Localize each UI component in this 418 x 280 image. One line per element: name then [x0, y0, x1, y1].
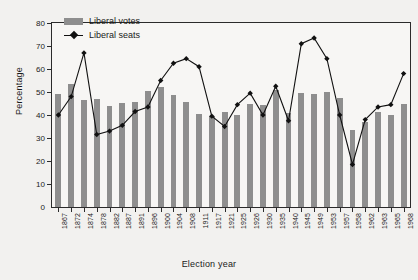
legend-item-liberal-votes: Liberal votes — [64, 14, 140, 28]
x-tick-mark-1878 — [97, 208, 98, 212]
y-tick-mark-60 — [47, 69, 51, 70]
plot-area — [51, 22, 411, 208]
y-tick-label-20: 20 — [5, 157, 45, 166]
legend-item-liberal-seats: Liberal seats — [64, 28, 140, 42]
x-tick-label-1900: 1900 — [164, 213, 171, 229]
x-tick-mark-1887 — [122, 208, 123, 212]
x-tick-label-1867: 1867 — [61, 213, 68, 229]
marker-1940 — [286, 118, 291, 123]
x-tick-mark-1921 — [225, 208, 226, 212]
y-tick-label-70: 70 — [5, 42, 45, 51]
y-tick-mark-50 — [47, 92, 51, 93]
x-tick-label-1904: 1904 — [176, 213, 183, 229]
x-tick-mark-1953 — [327, 208, 328, 212]
y-tick-label-10: 10 — [5, 180, 45, 189]
x-tick-mark-1911 — [199, 208, 200, 212]
x-tick-mark-1935 — [276, 208, 277, 212]
marker-1965 — [388, 102, 393, 107]
x-tick-label-1968: 1968 — [407, 213, 414, 229]
y-tick-mark-30 — [47, 138, 51, 139]
x-tick-mark-1896 — [148, 208, 149, 212]
x-tick-label-1891: 1891 — [138, 213, 145, 229]
x-tick-label-1874: 1874 — [87, 213, 94, 229]
marker-1949 — [311, 35, 316, 40]
liberal-seats-line — [58, 38, 403, 165]
x-tick-mark-1930 — [263, 208, 264, 212]
y-tick-mark-10 — [47, 184, 51, 185]
plot-inner — [52, 23, 410, 207]
x-tick-mark-1962 — [365, 208, 366, 212]
x-tick-mark-1945 — [301, 208, 302, 212]
x-tick-label-1926: 1926 — [253, 213, 260, 229]
x-tick-mark-1874 — [84, 208, 85, 212]
x-tick-label-1957: 1957 — [343, 213, 350, 229]
x-tick-label-1953: 1953 — [330, 213, 337, 229]
marker-1958 — [350, 162, 355, 167]
x-tick-mark-1867 — [58, 208, 59, 212]
y-tick-label-60: 60 — [5, 65, 45, 74]
x-tick-mark-1900 — [161, 208, 162, 212]
x-tick-label-1872: 1872 — [74, 213, 81, 229]
chart-legend: Liberal votes Liberal seats — [64, 14, 140, 42]
x-tick-label-1878: 1878 — [100, 213, 107, 229]
x-tick-label-1887: 1887 — [125, 213, 132, 229]
x-tick-label-1930: 1930 — [266, 213, 273, 229]
y-tick-label-40: 40 — [5, 111, 45, 120]
y-tick-label-30: 30 — [5, 134, 45, 143]
marker-1945 — [299, 41, 304, 46]
y-tick-mark-40 — [47, 115, 51, 116]
x-tick-label-1940: 1940 — [292, 213, 299, 229]
x-tick-label-1925: 1925 — [240, 213, 247, 229]
marker-1908 — [184, 56, 189, 61]
x-tick-mark-1908 — [186, 208, 187, 212]
x-tick-mark-1965 — [391, 208, 392, 212]
marker-1878 — [94, 132, 99, 137]
marker-1953 — [324, 56, 329, 61]
x-tick-mark-1963 — [378, 208, 379, 212]
x-tick-label-1911: 1911 — [202, 213, 209, 228]
x-tick-label-1917: 1917 — [215, 213, 222, 229]
y-tick-label-80: 80 — [5, 19, 45, 28]
y-tick-mark-80 — [47, 23, 51, 24]
line-series — [52, 23, 410, 207]
marker-1968 — [401, 71, 406, 76]
x-tick-mark-1904 — [173, 208, 174, 212]
x-tick-label-1945: 1945 — [304, 213, 311, 229]
x-tick-mark-1917 — [212, 208, 213, 212]
x-tick-mark-1968 — [404, 208, 405, 212]
x-tick-label-1958: 1958 — [355, 213, 362, 229]
marker-1896 — [145, 104, 150, 109]
line-diamond-icon — [64, 32, 83, 39]
y-tick-label-50: 50 — [5, 88, 45, 97]
x-tick-label-1949: 1949 — [317, 213, 324, 229]
marker-1930 — [260, 112, 265, 117]
y-tick-mark-20 — [47, 161, 51, 162]
x-tick-mark-1940 — [289, 208, 290, 212]
bar-swatch-icon — [64, 18, 83, 25]
x-tick-label-1908: 1908 — [189, 213, 196, 229]
marker-1911 — [196, 64, 201, 69]
marker-1935 — [273, 84, 278, 89]
x-tick-mark-1882 — [110, 208, 111, 212]
x-tick-label-1963: 1963 — [381, 213, 388, 229]
x-tick-label-1896: 1896 — [151, 213, 158, 229]
x-axis-title: Election year — [0, 259, 418, 269]
x-tick-mark-1891 — [135, 208, 136, 212]
x-tick-label-1935: 1935 — [279, 213, 286, 229]
x-tick-mark-1958 — [352, 208, 353, 212]
x-tick-label-1962: 1962 — [368, 213, 375, 229]
x-tick-mark-1926 — [250, 208, 251, 212]
x-tick-mark-1957 — [340, 208, 341, 212]
marker-1957 — [337, 112, 342, 117]
marker-1882 — [107, 128, 112, 133]
marker-1874 — [81, 50, 86, 55]
x-tick-label-1965: 1965 — [394, 213, 401, 229]
x-tick-mark-1949 — [314, 208, 315, 212]
x-tick-label-1921: 1921 — [228, 213, 235, 229]
x-tick-label-1882: 1882 — [113, 213, 120, 229]
y-tick-mark-70 — [47, 46, 51, 47]
legend-label-liberal-votes: Liberal votes — [89, 14, 140, 28]
chart-container: Percentage 01020304050607080 18671872187… — [0, 0, 418, 280]
x-tick-mark-1872 — [71, 208, 72, 212]
legend-label-liberal-seats: Liberal seats — [89, 28, 140, 42]
